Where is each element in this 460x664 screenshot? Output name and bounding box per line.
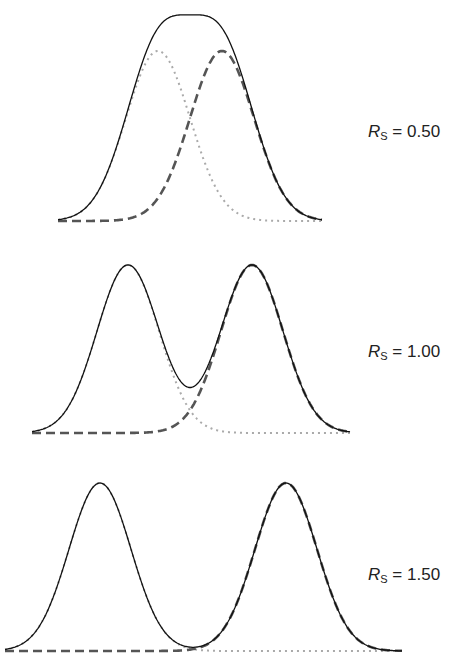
panel-rs-150 [5,483,402,651]
peak-2-dashed-curve [32,265,350,433]
peak-2-dashed-curve [5,483,402,651]
panel-rs-050 [58,15,322,221]
panel-rs-100 [32,265,350,433]
sum-solid-curve [5,483,402,651]
rs-label-150: RS = 1.50 [368,565,440,585]
peak-2-dashed-curve [58,51,322,221]
rs-label-100: RS = 1.00 [368,342,440,362]
peak-1-dotted-curve [58,51,322,221]
peak-1-dotted-curve [5,483,402,651]
rs-label-050: RS = 0.50 [368,122,440,142]
